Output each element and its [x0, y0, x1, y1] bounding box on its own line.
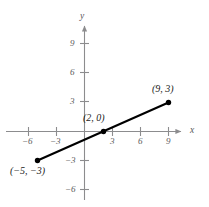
data-point-marker-middle	[101, 129, 106, 134]
y-tick-label-9: 9	[70, 39, 75, 48]
x-tick-label-neg3: −3	[50, 137, 61, 146]
data-point-marker-lower-left	[35, 158, 40, 163]
annotation-point-neg5-neg3: (−5, −3)	[10, 166, 45, 176]
x-axis-label: x	[190, 126, 194, 136]
y-axis-label: y	[80, 12, 84, 22]
y-tick-label-3: 3	[70, 97, 75, 106]
x-tick-label-3: 3	[110, 137, 115, 146]
annotation-point-9-3: (9, 3)	[152, 84, 174, 94]
annotation-point-2-0: (2, 0)	[83, 113, 105, 123]
x-tick-label-6: 6	[138, 137, 143, 146]
y-tick-label-6: 6	[70, 68, 75, 77]
coordinate-plane-figure: −6 −3 3 6 9 9 6 3 −3 −6 y x (9, 3) (2, 0…	[0, 0, 209, 207]
y-tick-label-neg3: −3	[65, 156, 76, 165]
x-tick-label-9: 9	[166, 137, 171, 146]
data-point-marker-upper-right	[166, 100, 171, 105]
y-tick-label-neg6: −6	[65, 185, 76, 194]
x-tick-label-neg6: −6	[22, 137, 33, 146]
